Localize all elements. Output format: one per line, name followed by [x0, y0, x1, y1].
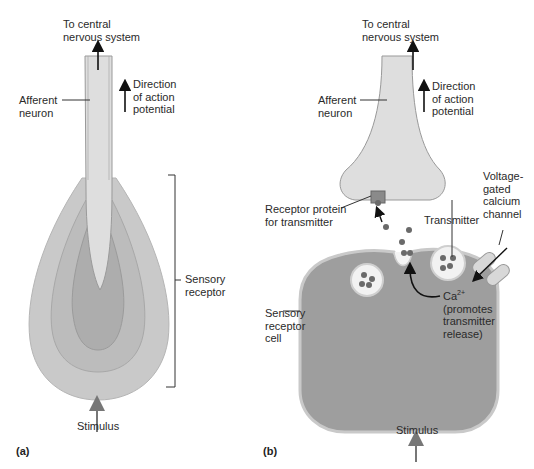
- afferent-label-a: Afferentneuron: [19, 94, 57, 119]
- panel-a-label: (a): [16, 445, 29, 457]
- afferent-label-b: Afferentneuron: [318, 94, 356, 119]
- sensory-receptor-cell: [300, 249, 498, 432]
- vesicle-right: [431, 246, 465, 280]
- to-cns-label-b: To centralnervous system: [362, 18, 439, 43]
- direction-label-b: Directionof actionpotential: [432, 80, 475, 118]
- direction-label-a: Directionof actionpotential: [133, 78, 176, 116]
- sensory-receptor-bracket: [166, 175, 175, 387]
- diagram-canvas: [0, 0, 534, 469]
- sensory-receptor-label: Sensoryreceptor: [185, 273, 225, 298]
- to-cns-label-a: To centralnervous system: [63, 18, 140, 43]
- panel-b-label: (b): [263, 445, 277, 457]
- afferent-neuron-b: [340, 56, 445, 200]
- calcium-label: Ca2+(promotestransmitterrelease): [443, 290, 495, 340]
- stimulus-label-a: Stimulus: [77, 420, 119, 433]
- stimulus-label-b: Stimulus: [396, 424, 438, 437]
- sensory-cell-label: Sensoryreceptorcell: [265, 307, 305, 345]
- vesicle-left: [351, 264, 383, 296]
- voltage-gated-label: Voltage-gatedcalciumchannel: [483, 170, 523, 220]
- transmitter-label: Transmitter: [424, 214, 479, 227]
- receptor-protein-label: Receptor proteinfor transmitter: [265, 203, 346, 228]
